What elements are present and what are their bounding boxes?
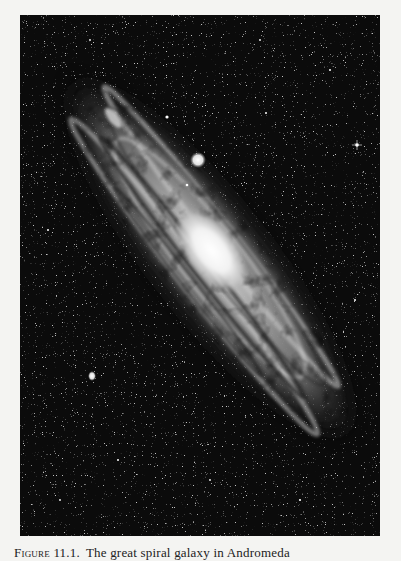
galaxy-image bbox=[20, 15, 380, 536]
galaxy-photograph bbox=[20, 15, 380, 536]
companion-galaxy-large bbox=[190, 152, 206, 168]
figure-caption: Figure 11.1.The great spiral galaxy in A… bbox=[14, 545, 394, 561]
figure-label: Figure 11.1. bbox=[14, 545, 80, 560]
companion-galaxy-small bbox=[88, 371, 96, 381]
caption-text: The great spiral galaxy in Andromeda bbox=[86, 545, 290, 560]
